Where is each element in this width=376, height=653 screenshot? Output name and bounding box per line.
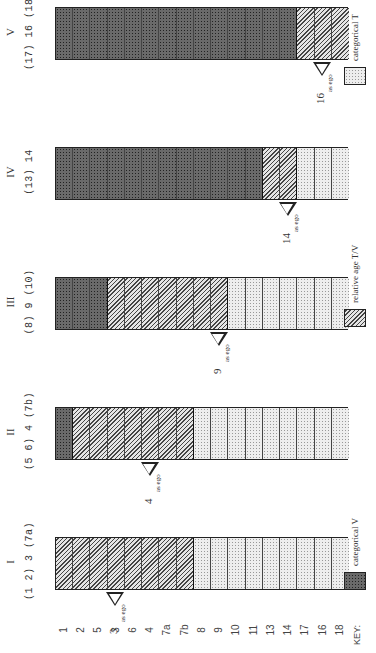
cell-tv (332, 8, 349, 59)
cell-v (228, 148, 245, 199)
cell-tv (211, 278, 228, 329)
panel-title: IV (4, 144, 16, 200)
cell-tv (159, 538, 176, 589)
cell-v (194, 8, 211, 59)
row-label: 13 (262, 613, 279, 647)
cell-t (332, 408, 349, 459)
cell-v (211, 8, 228, 59)
cell-tv (108, 538, 125, 589)
row-label: 9 (210, 613, 227, 647)
cell-v (56, 278, 73, 329)
panel-members: (5 6) 4 (7b) (24, 394, 35, 470)
cell-tv (142, 278, 159, 329)
swatch-categorical-t (344, 67, 366, 85)
cell-t (228, 408, 245, 459)
cell-v (228, 8, 245, 59)
row-label: 5 (89, 613, 106, 647)
cell-t (263, 538, 280, 589)
cell-t (211, 408, 228, 459)
row-label: 18 (331, 613, 348, 647)
cell-t (228, 538, 245, 589)
cell-tv (263, 148, 280, 199)
cell-v (108, 8, 125, 59)
cell-tv (297, 8, 314, 59)
cell-v (90, 148, 107, 199)
row-label: 1 (55, 613, 72, 647)
row-label: 14 (279, 613, 296, 647)
cell-v (159, 8, 176, 59)
panel-members: (13) 14 (24, 134, 35, 210)
cell-t (315, 148, 332, 199)
cell-v (90, 8, 107, 59)
cell-tv (315, 8, 332, 59)
term-bar (55, 537, 348, 590)
cell-tv (73, 408, 90, 459)
ego-label: as ego (326, 72, 334, 92)
cell-t (246, 408, 263, 459)
panel-members: (1 2) 3 (7a) (24, 524, 35, 600)
ego-label: as ego (119, 602, 127, 622)
cell-tv (90, 408, 107, 459)
cell-tv (125, 538, 142, 589)
cell-v (177, 148, 194, 199)
panel-title: V (4, 4, 16, 60)
cell-v (125, 148, 142, 199)
cell-t (228, 278, 245, 329)
ego-number: 16 (314, 93, 326, 104)
cell-t (211, 538, 228, 589)
cell-v (73, 148, 90, 199)
cell-tv (90, 538, 107, 589)
cell-tv (108, 278, 125, 329)
cell-t (194, 408, 211, 459)
cell-v (177, 8, 194, 59)
cell-v (142, 148, 159, 199)
cell-t (315, 538, 332, 589)
cell-v (142, 8, 159, 59)
term-bar (55, 7, 348, 60)
cell-tv (108, 408, 125, 459)
cell-v (56, 148, 73, 199)
panel-members: (17) 16 (18) (24, 0, 35, 70)
row-label: 17 (296, 613, 313, 647)
term-bar (55, 277, 348, 330)
row-label: 10 (227, 613, 244, 647)
key-text: relative age T/V (350, 245, 360, 303)
cell-t (263, 278, 280, 329)
cell-t (280, 538, 297, 589)
cell-v (73, 8, 90, 59)
ego-label: as ego (223, 342, 231, 362)
cell-t (280, 408, 297, 459)
cell-v (211, 148, 228, 199)
term-bar (55, 407, 348, 460)
cell-t (246, 538, 263, 589)
cell-v (90, 278, 107, 329)
row-label: 4 (141, 613, 158, 647)
cell-tv (142, 408, 159, 459)
cell-t (297, 408, 314, 459)
ego-number: 9 (211, 369, 223, 375)
row-label: 16 (314, 613, 331, 647)
cell-tv (125, 278, 142, 329)
row-label: 8 (193, 613, 210, 647)
row-label: 2 (72, 613, 89, 647)
key-text: categorical V (350, 518, 360, 566)
key-text: categorical T (350, 14, 360, 61)
kinship-terminology-diagram: 1253647a7b8910111314171618 I(1 2) 3 (7a)… (0, 0, 376, 653)
ego-number: 14 (280, 233, 292, 244)
cell-v (73, 278, 90, 329)
row-label: 7b (176, 613, 193, 647)
cell-v (159, 148, 176, 199)
panel-title: III (4, 274, 16, 330)
cell-t (297, 148, 314, 199)
cell-tv (159, 278, 176, 329)
cell-t (280, 278, 297, 329)
cell-t (263, 408, 280, 459)
cell-t (315, 278, 332, 329)
cell-tv (177, 278, 194, 329)
term-bar (55, 147, 348, 200)
cell-tv (73, 538, 90, 589)
panel-members: (8) 9 (10) (24, 264, 35, 340)
cell-t (315, 408, 332, 459)
cell-t (297, 538, 314, 589)
ego-label: as ego (292, 212, 300, 232)
